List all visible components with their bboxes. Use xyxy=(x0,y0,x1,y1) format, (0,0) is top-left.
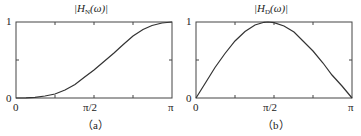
y-tick-top-b: 1 xyxy=(186,16,192,27)
x-tick-right-a: π xyxy=(168,102,174,113)
x-tick-left-b: 0 xyxy=(193,102,199,113)
curve-b xyxy=(196,22,352,98)
chart-panel-a: |HN(ω)| 1 0 0 π/2 π （a） xyxy=(0,0,180,136)
x-tick-left-a: 0 xyxy=(13,102,19,113)
curve-a xyxy=(16,22,172,98)
x-tick-mid-a: π/2 xyxy=(83,102,97,113)
x-tick-mid-b: π/2 xyxy=(263,102,277,113)
caption-b: （b） xyxy=(262,116,290,132)
y-tick-bottom-b: 0 xyxy=(186,93,192,104)
y-tick-bottom-a: 0 xyxy=(6,93,12,104)
x-tick-right-b: π xyxy=(348,102,354,113)
chart-panel-b: |HD(ω)| 1 0 0 π/2 π （b） xyxy=(180,0,361,136)
caption-a: （a） xyxy=(82,116,109,132)
y-tick-top-a: 1 xyxy=(6,16,12,27)
